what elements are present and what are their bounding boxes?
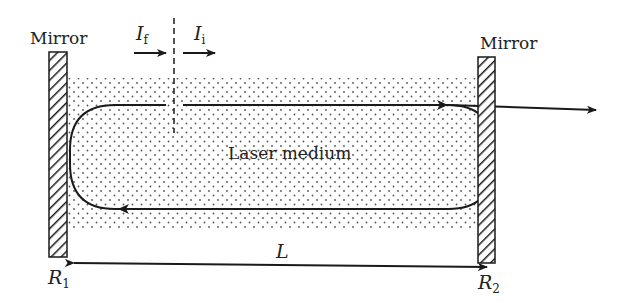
reflectivity-r2-label: R2 xyxy=(478,271,500,296)
intensity-i-label: Ii xyxy=(194,22,205,47)
reflectivity-r1-label: R1 xyxy=(48,266,70,291)
laser-medium-label: Laser medium xyxy=(228,143,351,163)
length-dimension xyxy=(74,263,487,267)
right-mirror-label: Mirror xyxy=(480,33,537,53)
left-mirror-label: Mirror xyxy=(30,28,87,48)
right-mirror xyxy=(478,57,495,263)
laser-cavity-diagram: Mirror Mirror If Ii Laser medium L R1 R2 xyxy=(0,0,629,306)
intensity-f-label: If xyxy=(136,22,148,47)
left-mirror xyxy=(49,52,67,257)
length-label: L xyxy=(276,240,289,262)
